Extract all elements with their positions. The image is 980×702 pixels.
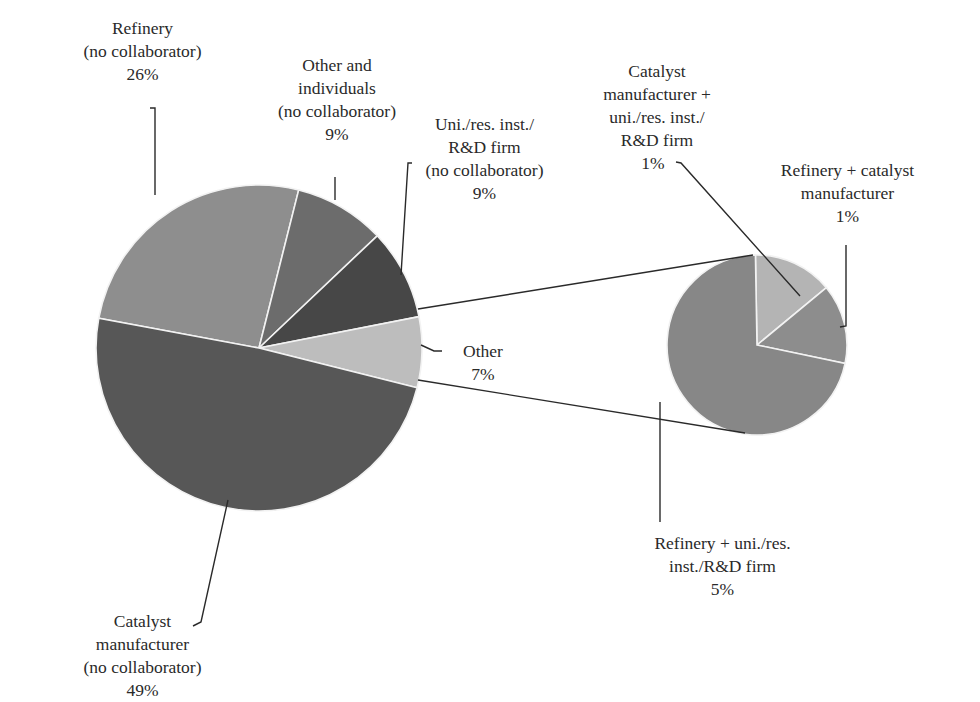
label-line: inst./R&D firm [640, 555, 805, 578]
label-line: R&D firm [412, 136, 557, 159]
label-other-individuals: Other and individuals (no collaborator) … [262, 54, 412, 146]
label-percent: 7% [448, 363, 518, 386]
label-percent: 9% [262, 123, 412, 146]
label-cat-uni: Catalyst manufacturer + uni./res. inst./… [587, 60, 727, 175]
label-percent: 1% [587, 152, 727, 175]
label-percent: 49% [60, 679, 225, 702]
label-uni: Uni./res. inst./ R&D firm (no collaborat… [412, 113, 557, 205]
label-ref-cat: Refinery + catalyst manufacturer 1% [765, 159, 930, 228]
label-line: individuals [262, 77, 412, 100]
label-line: manufacturer + [587, 83, 727, 106]
label-line: R&D firm [587, 129, 727, 152]
label-percent: 1% [765, 205, 930, 228]
label-line: (no collaborator) [60, 656, 225, 679]
label-line: uni./res. inst./ [587, 106, 727, 129]
label-line: (no collaborator) [262, 100, 412, 123]
label-other: Other 7% [448, 340, 518, 386]
label-line: (no collaborator) [60, 40, 225, 63]
label-percent: 26% [60, 63, 225, 86]
leader-refinery [150, 108, 155, 195]
label-line: Other and [262, 54, 412, 77]
label-line: Refinery [60, 17, 225, 40]
label-line: Refinery + uni./res. [640, 532, 805, 555]
label-line: (no collaborator) [412, 159, 557, 182]
label-line: manufacturer [765, 182, 930, 205]
label-refinery: Refinery (no collaborator) 26% [60, 17, 225, 86]
label-percent: 5% [640, 578, 805, 601]
label-line: Uni./res. inst./ [412, 113, 557, 136]
label-catalyst: Catalyst manufacturer (no collaborator) … [60, 610, 225, 702]
label-line: manufacturer [60, 633, 225, 656]
label-line: Refinery + catalyst [765, 159, 930, 182]
leader-uni [401, 163, 412, 275]
main-pie [96, 185, 422, 511]
label-line: Catalyst [587, 60, 727, 83]
label-line: Catalyst [60, 610, 225, 633]
secondary-pie [667, 255, 847, 435]
leader-catalyst [193, 500, 228, 626]
label-line: Other [448, 340, 518, 363]
label-percent: 9% [412, 182, 557, 205]
label-ref-uni: Refinery + uni./res. inst./R&D firm 5% [640, 532, 805, 601]
leader-other [421, 345, 442, 351]
